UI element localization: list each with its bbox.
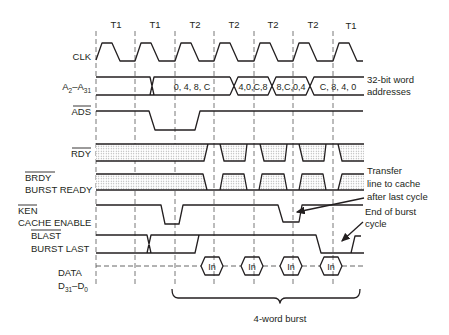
blast-label: BLAST: [31, 230, 61, 241]
data-value: In: [327, 262, 335, 272]
address-value: 4,0,C,8: [238, 82, 267, 92]
period-label: T1: [149, 19, 160, 30]
period-label: T1: [110, 19, 121, 30]
end-of-burst-note: cycle: [365, 218, 387, 229]
address-value: 8,C,0,4: [276, 82, 305, 92]
ads-label: ADS: [71, 106, 91, 117]
brdy-label-2: BURST READY: [25, 184, 93, 195]
data-value: In: [208, 262, 216, 272]
blast-waveform: [96, 235, 364, 253]
data-label: DATA: [58, 267, 83, 278]
period-label: T1: [345, 20, 356, 31]
burst-label: 4-word burst: [254, 313, 307, 324]
end-of-burst-arrow: [342, 222, 363, 241]
address-value: 0, 4, 8, C: [174, 82, 211, 92]
rdy-row: RDY: [71, 144, 364, 161]
blast-row: BLAST BURST LAST: [31, 230, 364, 254]
transfer-note: line to cache: [367, 178, 420, 189]
transfer-note: after last cycle: [367, 191, 428, 202]
period-label: T2: [228, 19, 239, 30]
timing-diagram: T1 T1 T2 T2 T2 T2 T1 CLK A2–A31 0, 4, 8,…: [0, 0, 449, 335]
transfer-note: Transfer: [367, 165, 402, 176]
rdy-label: RDY: [71, 148, 92, 159]
address-label: A2–A31: [62, 81, 91, 94]
burst-brace: 4-word burst: [172, 289, 360, 324]
clk-waveform: [96, 43, 363, 61]
address-bus-row: A2–A31 0, 4, 8, C 4,0,C,8 8,C,0,4 C, 8, …: [62, 74, 414, 97]
ads-waveform: [96, 111, 363, 130]
period-labels: T1 T1 T2 T2 T2 T2 T1: [110, 19, 356, 31]
ken-waveform: [96, 205, 363, 224]
data-row: DATA D31–D0 In In In In: [58, 257, 363, 293]
ken-label-2: CACHE ENABLE: [18, 217, 91, 228]
ads-row: ADS: [71, 106, 363, 130]
address-value: C, 8, 4, 0: [320, 82, 357, 92]
address-note: addresses: [367, 86, 411, 97]
ken-label: KEN: [18, 205, 38, 216]
period-label: T2: [189, 19, 200, 30]
brdy-row: BRDY BURST READY: [25, 172, 364, 195]
data-value: In: [248, 262, 256, 272]
clk-row: CLK: [73, 43, 363, 62]
blast-label-2: BURST LAST: [31, 243, 90, 254]
brdy-label: BRDY: [25, 172, 52, 183]
data-value: In: [287, 262, 295, 272]
period-label: T2: [267, 19, 278, 30]
end-of-burst-note: End of burst: [365, 206, 417, 217]
clk-label: CLK: [73, 51, 92, 62]
period-label: T2: [307, 19, 318, 30]
address-note: 32-bit word: [367, 74, 414, 85]
data-label-2: D31–D0: [58, 280, 88, 293]
